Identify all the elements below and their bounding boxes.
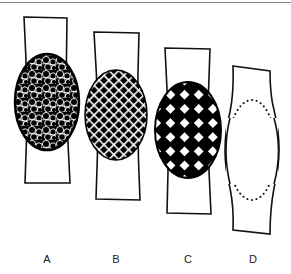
panel-label-d: D <box>243 253 263 265</box>
panel-label-c: C <box>178 253 198 265</box>
panel-d <box>225 66 279 234</box>
panel-a-lesion <box>15 54 79 150</box>
panel-c-lesion <box>155 82 221 178</box>
panel-a <box>15 17 79 183</box>
panel-label-b: B <box>106 253 126 265</box>
panel-c <box>155 48 221 214</box>
panel-b <box>85 32 147 200</box>
panel-b-lesion <box>85 70 147 160</box>
diagram-canvas <box>0 0 291 274</box>
panel-label-a: A <box>37 253 57 265</box>
